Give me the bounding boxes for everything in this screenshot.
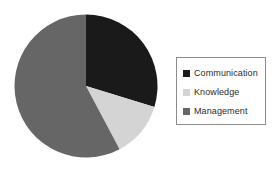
legend-label-management: Management (194, 106, 248, 116)
legend-swatch-management (183, 108, 190, 115)
legend-item-communication[interactable]: Communication (183, 64, 260, 82)
legend-item-management[interactable]: Management (183, 102, 260, 120)
pie-chart-svg (14, 14, 158, 158)
legend-item-knowledge[interactable]: Knowledge (183, 83, 260, 101)
legend-swatch-communication (183, 70, 190, 77)
legend-label-knowledge: Knowledge (194, 87, 239, 97)
pie-chart-plot-area (14, 14, 158, 158)
legend-label-communication: Communication (194, 68, 258, 78)
pie-slice-group (15, 15, 158, 158)
pie-chart-figure: Communication Knowledge Management (0, 0, 278, 173)
legend-swatch-knowledge (183, 89, 190, 96)
chart-legend: Communication Knowledge Management (176, 57, 266, 125)
